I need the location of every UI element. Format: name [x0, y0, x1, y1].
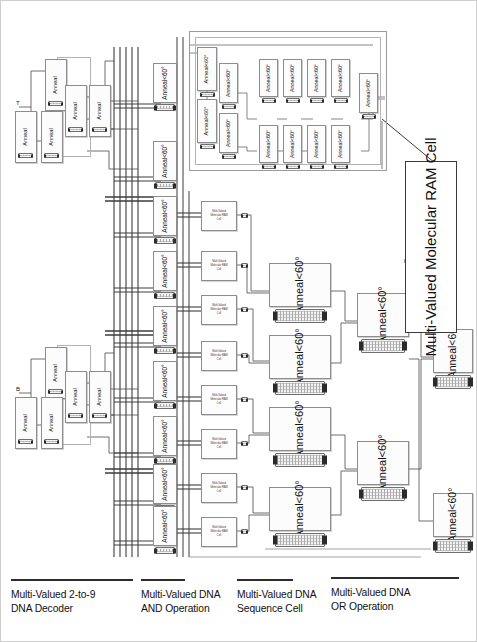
anneal-box[interactable]: Anneal<60° [153, 141, 177, 181]
tube-icon [310, 98, 324, 103]
anneal-box[interactable]: Anneal<60° [153, 464, 177, 504]
anneal-label-line1: Anneal [162, 80, 169, 100]
caption-line1: Multi-Valued DNA [237, 588, 316, 602]
anneal-box[interactable]: Anneal<60° [153, 416, 177, 456]
anneal-box[interactable]: Anneal<60° [153, 306, 177, 346]
anneal-label-line1: Anneal [314, 75, 320, 92]
tube-icon [155, 182, 175, 189]
tube-icon [334, 164, 348, 169]
anneal-label-line2: <60° [226, 119, 232, 130]
anneal-label-line1: Anneal [338, 141, 344, 158]
anneal-label-line2: <60° [162, 467, 169, 480]
tube-icon [310, 164, 324, 169]
ram-cell-box[interactable]: Multi-ValuedMolecular RAMCell [201, 295, 237, 325]
anneal-label-line2: <60° [162, 254, 169, 267]
anneal-box[interactable]: Anneal<60° [433, 493, 473, 537]
ram-cell-label-line3: Cell [210, 218, 227, 222]
anneal-box[interactable]: Anneal<60° [269, 263, 331, 307]
anneal-label-line2: <60° [338, 64, 344, 75]
tube-icon [286, 98, 300, 103]
anneal-box[interactable]: Anneal<60° [153, 196, 177, 236]
anneal-label-line2: <60° [294, 256, 306, 279]
ram-cell-label-line3: Cell [210, 312, 227, 316]
anneal-label-line2: <60° [204, 106, 210, 118]
ram-cell-box[interactable]: Multi-ValuedMolecular RAMCell [201, 251, 237, 281]
ram-cell-box[interactable]: Multi-ValuedMolecular RAMCell [201, 201, 237, 231]
anneal-label-line2: <60° [290, 64, 296, 75]
anneal-label-line2: <60° [338, 130, 344, 141]
tube-icon [222, 104, 236, 109]
callout-line2: RAM Cell [422, 138, 439, 201]
anneal-label-line1: Anneal [162, 378, 169, 398]
ram-cell-box[interactable]: Multi-ValuedMolecular RAMCell [201, 473, 237, 503]
anneal-box[interactable]: Anneal<60° [331, 125, 350, 163]
tube-icon [241, 263, 248, 268]
tube-icon [155, 457, 175, 464]
callout-line1: Multi-Valued Molecular [422, 205, 439, 356]
anneal-label-line2: <60° [266, 64, 272, 75]
tube-icon [155, 347, 175, 354]
tube-icon [155, 402, 175, 409]
anneal-label-line1: Anneal [338, 75, 344, 92]
tube-icon [275, 381, 325, 395]
anneal-label-line1: Anneal [447, 346, 458, 379]
ram-cell-label-line3: Cell [210, 358, 227, 362]
anneal-label-line1: Anneal [290, 141, 296, 158]
anneal-box[interactable]: Anneal<60° [331, 59, 350, 97]
tube-icon [68, 413, 83, 418]
tube-icon [155, 104, 175, 111]
tube-icon [241, 485, 248, 490]
ram-cell-box[interactable]: Multi-ValuedMolecular RAMCell [201, 341, 237, 371]
anneal-box[interactable]: Anneal<60° [153, 63, 177, 103]
anneal-box[interactable]: Anneal<60° [219, 113, 238, 153]
anneal-box[interactable]: Anneal<60° [269, 487, 331, 531]
anneal-label-line1: Anneal [162, 158, 169, 178]
anneal-box[interactable]: Anneal<60° [219, 63, 238, 103]
anneal-label-line1: Anneal [447, 510, 458, 543]
anneal-box[interactable]: Anneal<60° [153, 251, 177, 291]
tube-icon [200, 92, 215, 97]
anneal-box[interactable]: Anneal<60° [357, 441, 409, 485]
caption-rule [141, 579, 185, 581]
caption-line1: Multi-Valued 2-to-9 [11, 588, 133, 602]
anneal-box[interactable]: Anneal<60° [359, 73, 378, 113]
caption-or: Multi-Valued DNAOR Operation [331, 577, 459, 614]
anneal-label-line2: <60° [377, 286, 389, 309]
decoder-top-input-label: T [16, 100, 20, 106]
anneal-label-line2: <60° [447, 488, 458, 510]
tube-icon [435, 539, 471, 553]
anneal-label-line1: Anneal [162, 433, 169, 453]
tube-icon [241, 353, 248, 358]
anneal-label-line1: Anneal [290, 75, 296, 92]
anneal-label-line2: <60° [290, 130, 296, 141]
anneal-label-line2: <60° [314, 64, 320, 75]
diagram-canvas: T Anneal Anneal Anneal Anneal [1, 1, 477, 567]
tube-icon [262, 164, 276, 169]
ram-cell-box[interactable]: Multi-ValuedMolecular RAMCell [201, 385, 237, 415]
anneal-label-line2: <60° [366, 79, 372, 90]
anneal-box[interactable]: Anneal<60° [269, 407, 331, 451]
tube-icon [155, 547, 175, 554]
anneal-box[interactable]: Anneal<60° [269, 335, 331, 379]
tube-icon [68, 127, 83, 132]
tube-icon [334, 98, 348, 103]
anneal-box[interactable]: Anneal<60° [153, 506, 177, 546]
caption-line2: Sequence Cell [237, 602, 316, 616]
caption-sequence: Multi-Valued DNASequence Cell [237, 579, 316, 616]
tube-icon [92, 127, 107, 132]
tube-icon [241, 441, 248, 446]
caption-rule [331, 577, 459, 579]
anneal-box[interactable]: Anneal<60° [357, 293, 409, 337]
anneal-box[interactable]: Anneal<60° [153, 361, 177, 401]
caption-line2: DNA Decoder [11, 602, 133, 616]
caption-line1: Multi-Valued DNA [141, 588, 220, 602]
ram-cell-box[interactable]: Multi-ValuedMolecular RAMCell [201, 517, 237, 547]
anneal-label-line1: Anneal [162, 523, 169, 543]
tube-icon [361, 487, 405, 501]
tube-icon [435, 375, 471, 389]
ram-cell-box[interactable]: Multi-ValuedMolecular RAMCell [201, 429, 237, 459]
anneal-label-line2: <60° [162, 419, 169, 432]
anneal-label-line2: <60° [162, 509, 169, 522]
anneal-label-line2: <60° [266, 130, 272, 141]
anneal-label-line1: Anneal [226, 80, 232, 97]
